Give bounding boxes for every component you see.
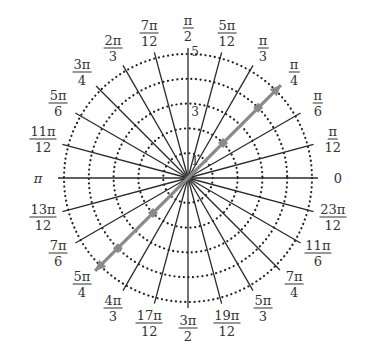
- angle-label-300deg: 5π3: [254, 293, 273, 322]
- label-denominator: 4: [78, 72, 86, 86]
- label-numerator: 2π: [104, 34, 123, 49]
- label-numerator: 23π: [319, 202, 346, 217]
- label-numerator: π: [313, 89, 324, 104]
- label-denominator: 4: [78, 285, 86, 299]
- label-denominator: 12: [141, 34, 158, 48]
- spoke-315deg: [188, 178, 280, 270]
- label-numerator: π: [289, 57, 300, 72]
- label-denominator: 2: [184, 329, 192, 343]
- angle-label-30deg: π6: [313, 89, 324, 118]
- label-denominator: 3: [109, 49, 117, 63]
- label-text: 0: [334, 171, 342, 186]
- label-numerator: 3π: [179, 314, 198, 329]
- label-denominator: 6: [54, 104, 62, 118]
- label-denominator: 3: [259, 49, 267, 63]
- label-numerator: 5π: [254, 293, 273, 308]
- angle-label-90deg: π2: [183, 14, 194, 43]
- ring-label-5: 5: [191, 45, 199, 59]
- label-numerator: 4π: [104, 293, 123, 308]
- label-denominator: 2: [184, 29, 192, 43]
- angle-label-135deg: 3π4: [73, 57, 92, 86]
- spoke-150deg: [75, 113, 188, 178]
- label-denominator: 4: [290, 72, 298, 86]
- angle-label-195deg: 13π12: [30, 202, 57, 231]
- angle-label-225deg: 5π4: [73, 270, 92, 299]
- angle-label-60deg: π3: [258, 34, 269, 63]
- label-denominator: 6: [54, 254, 62, 268]
- polar-grid-diagram: [0, 0, 369, 362]
- label-numerator: 11π: [30, 125, 57, 140]
- angle-label-285deg: 19π12: [213, 308, 240, 337]
- label-numerator: 3π: [73, 57, 92, 72]
- label-denominator: 12: [141, 323, 158, 337]
- label-numerator: 19π: [213, 308, 240, 323]
- label-denominator: 3: [259, 308, 267, 322]
- spoke-330deg: [188, 178, 301, 243]
- label-numerator: 5π: [49, 89, 68, 104]
- angle-label-270deg: 3π2: [179, 314, 198, 343]
- label-denominator: 12: [35, 217, 52, 231]
- spoke-135deg: [96, 86, 188, 178]
- label-denominator: 6: [314, 254, 322, 268]
- label-denominator: 12: [219, 34, 236, 48]
- spoke-285deg: [188, 178, 222, 304]
- angle-label-150deg: 5π6: [49, 89, 68, 118]
- label-denominator: 3: [109, 308, 117, 322]
- angle-label-165deg: 11π12: [30, 125, 57, 154]
- angle-label-0deg: 0: [334, 172, 342, 185]
- angle-label-240deg: 4π3: [104, 293, 123, 322]
- ring-label-1: 1: [191, 154, 199, 168]
- label-numerator: 13π: [30, 202, 57, 217]
- angle-label-45deg: π4: [289, 57, 300, 86]
- label-denominator: 6: [314, 104, 322, 118]
- angle-label-180deg: π: [34, 172, 43, 185]
- label-numerator: π: [258, 34, 269, 49]
- label-text: π: [34, 171, 43, 186]
- angle-label-75deg: 5π12: [217, 19, 236, 48]
- spoke-300deg: [188, 178, 253, 291]
- label-numerator: 5π: [217, 19, 236, 34]
- angle-label-15deg: π12: [325, 125, 342, 154]
- angle-label-210deg: 7π6: [49, 239, 68, 268]
- spoke-165deg: [62, 144, 188, 178]
- ring-label-3: 3: [191, 105, 199, 119]
- angle-label-345deg: 23π12: [319, 202, 346, 231]
- label-numerator: π: [328, 125, 339, 140]
- label-numerator: 11π: [304, 239, 331, 254]
- label-denominator: 12: [35, 140, 52, 154]
- angle-label-120deg: 2π3: [104, 34, 123, 63]
- label-numerator: π: [183, 14, 194, 29]
- label-numerator: 7π: [49, 239, 68, 254]
- angle-label-330deg: 11π6: [304, 239, 331, 268]
- label-denominator: 12: [325, 140, 342, 154]
- label-numerator: 7π: [285, 270, 304, 285]
- label-denominator: 12: [325, 217, 342, 231]
- angle-label-315deg: 7π4: [285, 270, 304, 299]
- label-numerator: 5π: [73, 270, 92, 285]
- label-numerator: 17π: [136, 308, 163, 323]
- spoke-120deg: [123, 65, 188, 178]
- label-numerator: 7π: [140, 19, 159, 34]
- angle-label-255deg: 17π12: [136, 308, 163, 337]
- label-denominator: 4: [290, 285, 298, 299]
- label-denominator: 12: [219, 323, 236, 337]
- angle-label-105deg: 7π12: [140, 19, 159, 48]
